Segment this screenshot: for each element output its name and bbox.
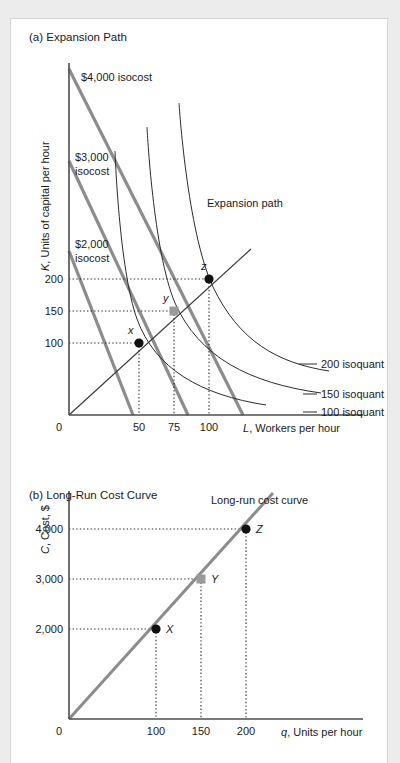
expansion-path-label: Expansion path (207, 197, 283, 209)
panel-b-xtick-150: 150 (192, 725, 210, 737)
long-run-cost-curve-label: Long-run cost curve (211, 494, 308, 506)
panel-a-x-axis-label: L, Workers per hour (243, 422, 340, 434)
panel-b-ytick-2000: 2,000 (35, 623, 63, 635)
figure-page: (a) Expansion Path (0, 0, 400, 763)
figure-card: (a) Expansion Path (10, 18, 388, 763)
panel-a-origin-label: 0 (56, 421, 62, 433)
panel-b-y-axis-text: , Cost, $ (39, 505, 51, 546)
point-x-marker (134, 338, 143, 347)
isocost-label-3000-line2: isocost (75, 165, 109, 177)
isoquant-curve-150 (147, 127, 321, 393)
point-X-label: X (165, 623, 174, 635)
panel-a-xtick-50: 50 (133, 421, 145, 433)
panel-a-y-axis-text: , Units of capital per hour (39, 141, 51, 264)
panel-a-ytick-200: 200 (45, 273, 63, 285)
point-y-label: y (162, 292, 170, 304)
panel-b-origin-label: 0 (56, 725, 62, 737)
isoquant-label-100: 100 isoquant (321, 406, 384, 418)
point-y-marker (170, 307, 179, 316)
point-Y-label: Y (211, 573, 219, 585)
panel-b-x-axis-label: q, Units per hour (281, 726, 363, 738)
isoquant-label-200: 200 isoquant (321, 358, 384, 370)
isoquant-label-150: 150 isoquant (321, 388, 384, 400)
panel-a-ytick-100: 100 (45, 337, 63, 349)
point-z-marker (204, 274, 213, 283)
point-Z-marker (241, 524, 250, 533)
figure-svg: x y z 200 150 100 50 75 100 0 L, Workers… (11, 19, 389, 763)
panel-b-title: (b) Long-Run Cost Curve (29, 489, 157, 501)
isoquant-curve-100 (115, 151, 266, 405)
expansion-path-line (69, 249, 251, 415)
panel-a-xtick-75: 75 (168, 421, 180, 433)
isocost-label-2000-line2: isocost (75, 252, 109, 264)
panel-a-plot: x y z 200 150 100 50 75 100 0 L, Workers… (39, 63, 384, 434)
isocost-label-3000-line1: $3,000 (75, 151, 109, 163)
panel-b-x-axis-text: , Units per hour (287, 726, 363, 738)
panel-b-xtick-100: 100 (147, 725, 165, 737)
panel-a-x-axis-text: , Workers per hour (249, 422, 340, 434)
point-Z-label: Z (255, 523, 264, 535)
panel-b-plot: X Y Z 4,000 3,000 2,000 100 150 200 0 q,… (35, 491, 363, 738)
point-X-marker (151, 624, 160, 633)
point-z-label: z (200, 260, 207, 272)
isocost-label-2000-line1: $2,000 (75, 238, 109, 250)
isocost-label-4000: $4,000 isocost (81, 71, 152, 83)
panel-b-xtick-200: 200 (237, 725, 255, 737)
point-Y-marker (197, 575, 206, 584)
panel-b-ytick-3000: 3,000 (35, 573, 63, 585)
panel-a-ytick-150: 150 (45, 305, 63, 317)
panel-a-xtick-100: 100 (200, 421, 218, 433)
panel-b-y-axis-symbol: C (39, 546, 51, 554)
point-x-label: x (127, 324, 134, 336)
panel-b-y-axis-label: C, Cost, $ (39, 505, 51, 554)
panel-a-y-axis-label: K, Units of capital per hour (39, 141, 51, 271)
